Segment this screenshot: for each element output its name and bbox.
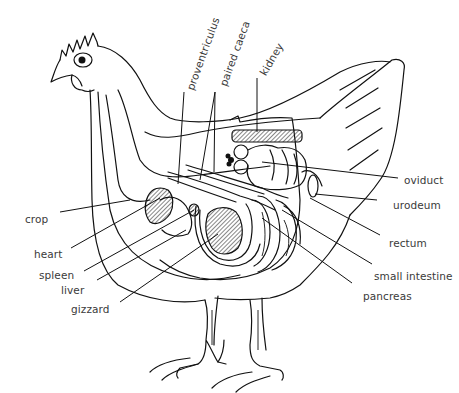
tail	[320, 59, 404, 215]
tail-feather-5	[350, 150, 378, 170]
label-pancreas: pancreas	[363, 291, 412, 302]
right-foot	[212, 372, 270, 392]
kidney	[232, 130, 302, 142]
tail-feather-3	[346, 108, 380, 128]
leader-heart	[71, 198, 160, 248]
label-small-intestine: small intestine	[374, 271, 453, 282]
leader-urodeum	[315, 194, 377, 200]
beak	[51, 60, 82, 86]
leader-gizzard	[120, 234, 218, 302]
right-leg	[250, 298, 283, 380]
tail-feather-2	[346, 88, 378, 108]
intestine-fold	[284, 220, 289, 256]
label-urodeum: urodeum	[393, 200, 441, 211]
leader-paired-caeca-1	[200, 92, 215, 180]
gizzard	[206, 208, 242, 254]
left-foot	[150, 340, 224, 380]
ovary-follicle	[234, 160, 248, 174]
tail-feather-4	[348, 128, 382, 150]
leader-proventriculus	[178, 92, 184, 184]
ovary-follicle	[234, 145, 248, 159]
label-rectum: rectum	[389, 238, 427, 249]
head-neck-back	[98, 46, 390, 122]
leader-oviduct	[262, 162, 398, 178]
label-oviduct: oviduct	[404, 175, 443, 186]
leader-crop	[60, 200, 130, 212]
left-leg-back	[214, 296, 218, 345]
oviduct-fold	[270, 150, 274, 180]
label-liver: liver	[61, 285, 84, 296]
leader-pancreas	[262, 218, 352, 283]
label-gizzard: gizzard	[71, 304, 110, 315]
label-crop: crop	[25, 214, 48, 225]
wattle	[71, 75, 94, 92]
left-leg	[177, 300, 226, 378]
oviduct-fold	[282, 150, 288, 184]
ovary-follicle	[226, 154, 231, 159]
label-heart: heart	[34, 249, 62, 260]
label-spleen: spleen	[39, 270, 74, 281]
esophagus-inner	[106, 95, 150, 201]
leader-rectum	[310, 198, 380, 235]
leader-paired-caeca-2	[214, 92, 215, 172]
leader-liver	[97, 230, 186, 280]
pupil	[79, 57, 86, 64]
heart	[145, 188, 173, 224]
ovary-follicle	[227, 162, 232, 167]
comb	[60, 33, 98, 60]
